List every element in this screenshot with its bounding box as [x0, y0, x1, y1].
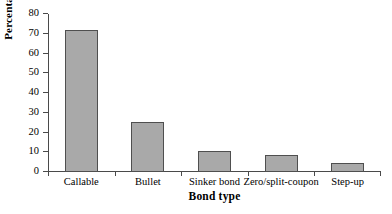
bar-chart: Percentage 01020304050607080 CallableBul… [0, 0, 392, 214]
bar [131, 122, 164, 172]
y-axis-tick-label: 40 [29, 85, 40, 98]
bar [65, 30, 98, 172]
y-axis-tick-label: 0 [34, 164, 39, 177]
y-axis-tick-label: 30 [29, 105, 40, 118]
y-axis-tick: 40 [43, 92, 48, 93]
y-axis-tick: 70 [43, 33, 48, 34]
y-axis-tick: 60 [43, 53, 48, 54]
y-axis-tick-label: 50 [29, 65, 40, 78]
y-axis-title: Percentage [2, 0, 18, 68]
y-axis-tick-label: 80 [29, 6, 40, 19]
y-axis-tick: 10 [43, 151, 48, 152]
bar [198, 151, 231, 172]
bar-series [48, 14, 381, 172]
bar [331, 163, 364, 172]
y-axis-tick-label: 60 [29, 46, 40, 59]
y-axis-tick: 20 [43, 132, 48, 133]
x-axis-tick-label: Step-up [306, 175, 389, 189]
y-axis-tick-label: 70 [29, 26, 40, 39]
y-axis-tick: 50 [43, 72, 48, 73]
y-axis-tick: 30 [43, 112, 48, 113]
plot-area: 01020304050607080 [48, 14, 381, 172]
y-axis-tick-label: 20 [29, 125, 40, 138]
x-axis-title: Bond type [48, 190, 381, 202]
y-axis-tick: 80 [43, 13, 48, 14]
x-axis-tick-labels: CallableBulletSinker bondZero/split-coup… [48, 175, 381, 191]
bar [265, 155, 298, 172]
y-axis-tick-label: 10 [29, 144, 40, 157]
